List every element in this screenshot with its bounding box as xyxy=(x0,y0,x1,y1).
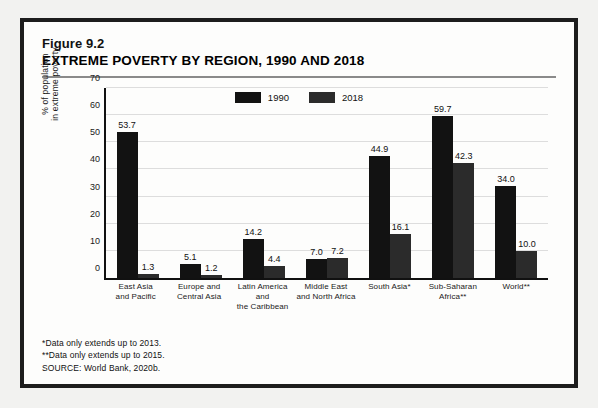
bar-group: 34.010.0 xyxy=(485,88,548,278)
bar-wrap: 16.1 xyxy=(390,88,411,278)
x-axis-label: Sub-Saharan Africa** xyxy=(421,282,484,312)
x-axis-label: Europe and Central Asia xyxy=(167,282,230,312)
bar-wrap: 1.3 xyxy=(138,88,159,278)
x-axis-labels: East Asia and PacificEurope and Central … xyxy=(104,282,548,312)
source-line: SOURCE: World Bank, 2020b. xyxy=(42,362,165,375)
bar-2018[interactable]: 16.1 xyxy=(390,234,411,278)
figure-title: EXTREME POVERTY BY REGION, 1990 AND 2018 xyxy=(42,52,556,69)
x-axis-label: Latin America and the Caribbean xyxy=(231,282,294,312)
y-axis-tick-label: 50 xyxy=(90,127,100,137)
figure-container: Figure 9.2 EXTREME POVERTY BY REGION, 19… xyxy=(20,18,578,388)
note-double-asterisk: **Data only extends up to 2015. xyxy=(42,349,165,362)
bar-group: 44.916.1 xyxy=(359,88,422,278)
bar-value-label: 10.0 xyxy=(518,239,536,249)
y-axis-tick-label: 60 xyxy=(90,100,100,110)
bar-wrap: 1.2 xyxy=(201,88,222,278)
bar-wrap: 14.2 xyxy=(243,88,264,278)
bar-group: 53.71.3 xyxy=(106,88,169,278)
bar-wrap: 42.3 xyxy=(453,88,474,278)
bar-value-label: 5.1 xyxy=(184,252,197,262)
bar-wrap: 5.1 xyxy=(180,88,201,278)
bar-value-label: 42.3 xyxy=(455,151,473,161)
figure-notes: *Data only extends up to 2013. **Data on… xyxy=(42,337,165,375)
figure-inner: Figure 9.2 EXTREME POVERTY BY REGION, 19… xyxy=(24,22,574,384)
bar-groups: 53.71.35.11.214.24.47.07.244.916.159.742… xyxy=(106,88,548,278)
bar-group: 14.24.4 xyxy=(232,88,295,278)
y-axis-tick-label: 20 xyxy=(90,209,100,219)
bar-wrap: 10.0 xyxy=(516,88,537,278)
note-asterisk: *Data only extends up to 2013. xyxy=(42,337,165,350)
bar-value-label: 1.2 xyxy=(205,263,218,273)
bar-2018[interactable]: 10.0 xyxy=(516,251,537,278)
bar-wrap: 53.7 xyxy=(117,88,138,278)
bar-1990[interactable]: 53.7 xyxy=(117,132,138,278)
x-axis-label: Middle East and North Africa xyxy=(294,282,357,312)
bar-1990[interactable]: 7.0 xyxy=(306,259,327,278)
bar-wrap: 7.0 xyxy=(306,88,327,278)
bar-value-label: 53.7 xyxy=(118,120,136,130)
bar-wrap: 34.0 xyxy=(495,88,516,278)
title-divider xyxy=(42,76,556,78)
bar-2018[interactable]: 1.2 xyxy=(201,275,222,278)
bar-wrap: 7.2 xyxy=(327,88,348,278)
bar-1990[interactable]: 59.7 xyxy=(432,116,453,278)
bar-group: 59.742.3 xyxy=(422,88,485,278)
bar-value-label: 44.9 xyxy=(371,144,389,154)
bar-2018[interactable]: 4.4 xyxy=(264,266,285,278)
bar-wrap: 44.9 xyxy=(369,88,390,278)
x-axis-label: East Asia and Pacific xyxy=(104,282,167,312)
bar-value-label: 34.0 xyxy=(497,174,515,184)
bar-1990[interactable]: 44.9 xyxy=(369,156,390,278)
y-axis-label: % of population in extreme poverty xyxy=(40,24,60,144)
x-axis-label: South Asia* xyxy=(358,282,421,312)
bar-2018[interactable]: 1.3 xyxy=(138,274,159,278)
y-axis-tick-label: 40 xyxy=(90,154,100,164)
plot-area: 010203040506070 53.71.35.11.214.24.47.07… xyxy=(104,88,548,280)
bar-1990[interactable]: 5.1 xyxy=(180,264,201,278)
bar-1990[interactable]: 14.2 xyxy=(243,239,264,278)
y-axis-tick-label: 30 xyxy=(90,182,100,192)
bar-value-label: 7.0 xyxy=(310,247,323,257)
bar-group: 5.11.2 xyxy=(169,88,232,278)
bar-wrap: 4.4 xyxy=(264,88,285,278)
bar-value-label: 7.2 xyxy=(331,246,344,256)
bar-value-label: 14.2 xyxy=(245,227,263,237)
chart-area: % of population in extreme poverty 19902… xyxy=(42,86,556,334)
y-axis-tick-label: 10 xyxy=(90,236,100,246)
bar-value-label: 16.1 xyxy=(392,222,410,232)
bar-value-label: 4.4 xyxy=(268,254,281,264)
bar-2018[interactable]: 42.3 xyxy=(453,163,474,278)
figure-number: Figure 9.2 xyxy=(42,36,556,51)
y-axis-tick-label: 70 xyxy=(90,73,100,83)
bar-2018[interactable]: 7.2 xyxy=(327,258,348,278)
bar-group: 7.07.2 xyxy=(295,88,358,278)
bar-value-label: 59.7 xyxy=(434,104,452,114)
bar-wrap: 59.7 xyxy=(432,88,453,278)
bar-value-label: 1.3 xyxy=(142,262,155,272)
x-axis-label: World** xyxy=(485,282,548,312)
y-axis-tick-label: 0 xyxy=(95,263,100,273)
bar-1990[interactable]: 34.0 xyxy=(495,186,516,278)
